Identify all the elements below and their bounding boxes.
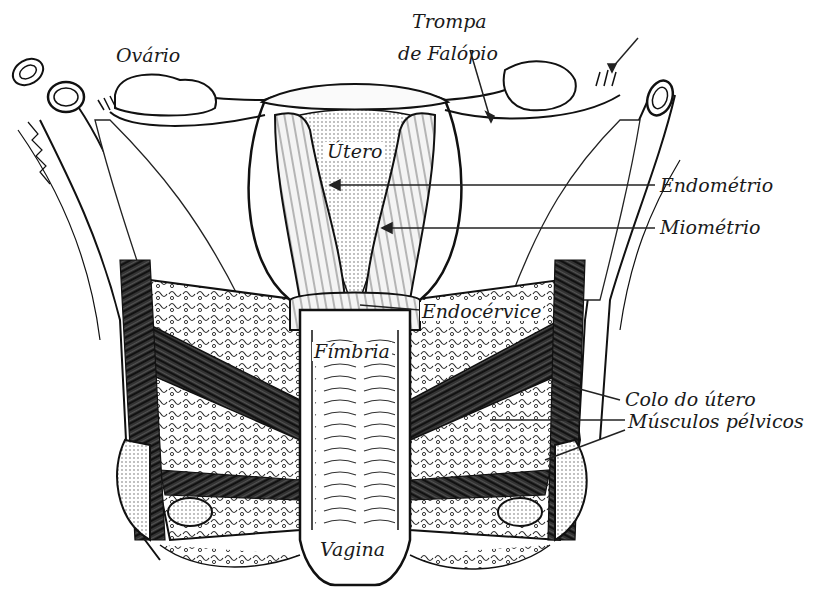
label-vagina: Vagina bbox=[318, 540, 387, 559]
label-endometrio: Endométrio bbox=[660, 176, 773, 195]
label-colo-do-utero: Colo do útero bbox=[625, 390, 756, 409]
label-miometrio: Miométrio bbox=[660, 218, 760, 237]
uterine-fundus bbox=[262, 84, 448, 110]
label-ovario: Ovário bbox=[116, 46, 180, 65]
label-endocervice: Endocérvice bbox=[420, 302, 543, 321]
left-broad-ligament bbox=[95, 120, 240, 300]
anatomy-illustration bbox=[0, 0, 829, 606]
label-fimbria: Fímbria bbox=[312, 342, 392, 361]
label-utero: Útero bbox=[325, 142, 384, 161]
label-trompa-line2: de Falópio bbox=[398, 44, 498, 63]
right-ovary bbox=[504, 61, 576, 110]
label-musculos-pelvicos: Músculos pélvicos bbox=[628, 412, 804, 431]
left-ovary bbox=[115, 75, 216, 116]
label-trompa-line1: Trompa bbox=[412, 12, 487, 31]
